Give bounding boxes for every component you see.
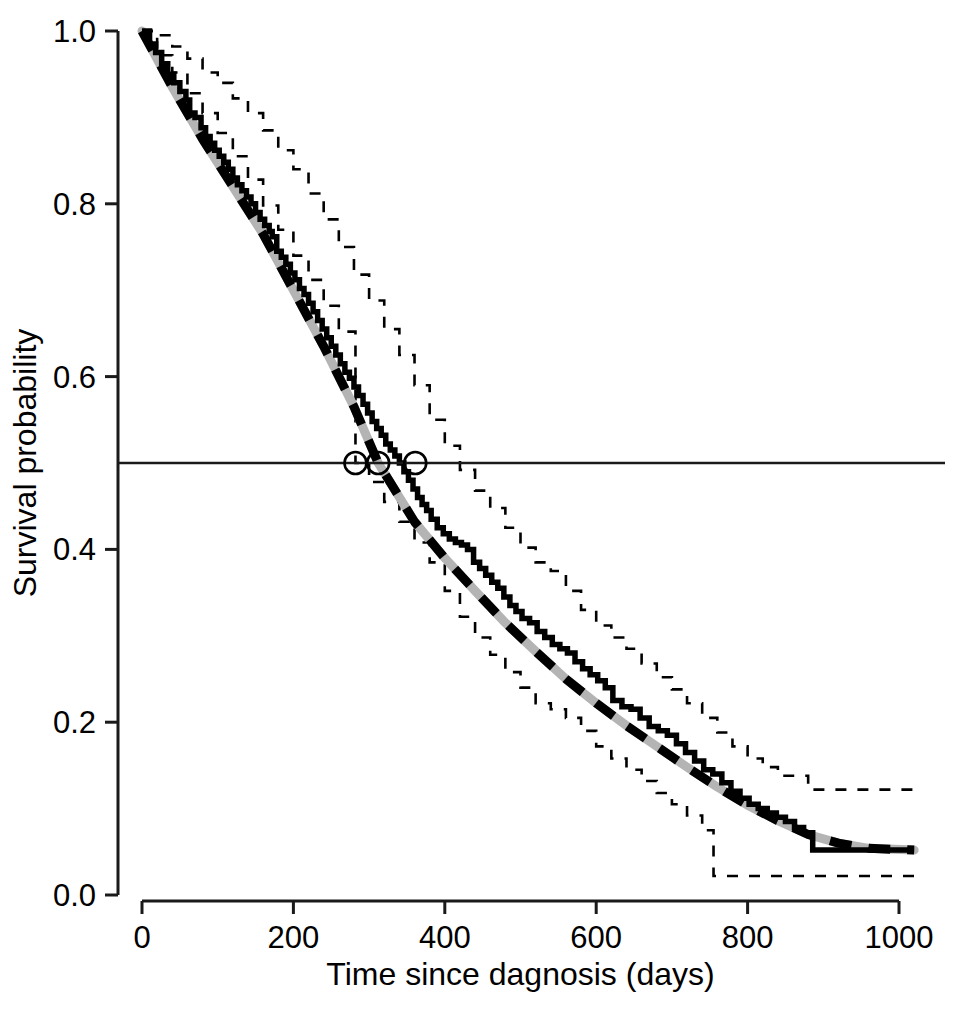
y-axis-ticks <box>105 31 118 895</box>
x-axis-tick-label: 0 <box>133 920 150 955</box>
x-axis-tick-labels: 02004006008001000 <box>133 920 933 955</box>
x-axis-tick-label: 800 <box>722 920 774 955</box>
fitted-model-line <box>142 31 914 850</box>
plot-data-area <box>118 31 945 876</box>
x-axis-tick-label: 200 <box>268 920 320 955</box>
y-axis-tick-label: 1.0 <box>53 14 96 49</box>
x-axis-tick-label: 600 <box>570 920 622 955</box>
y-axis-title: Survival probability <box>7 329 43 598</box>
y-axis-tick-label: 0.4 <box>53 532 96 567</box>
y-axis-tick-label: 0.6 <box>53 360 96 395</box>
x-axis-title: Time since dagnosis (days) <box>326 956 714 992</box>
survival-curve-figure: 0.00.20.40.60.81.0 02004006008001000 Sur… <box>0 0 954 1013</box>
x-axis-tick-label: 1000 <box>865 920 934 955</box>
kaplan-meier-step-line <box>142 31 914 850</box>
y-axis-tick-label: 0.0 <box>53 878 96 913</box>
survival-plot-svg: 0.00.20.40.60.81.0 02004006008001000 Sur… <box>0 0 954 1013</box>
x-axis-tick-label: 400 <box>419 920 471 955</box>
lower-confidence-band-line <box>142 31 914 876</box>
y-axis-tick-label: 0.8 <box>53 187 96 222</box>
y-axis-tick-labels: 0.00.20.40.60.81.0 <box>53 14 96 913</box>
upper-confidence-band-line <box>142 31 914 790</box>
x-axis-ticks <box>142 901 899 914</box>
fitted-model-underlay <box>142 31 914 850</box>
y-axis-tick-label: 0.2 <box>53 705 96 740</box>
